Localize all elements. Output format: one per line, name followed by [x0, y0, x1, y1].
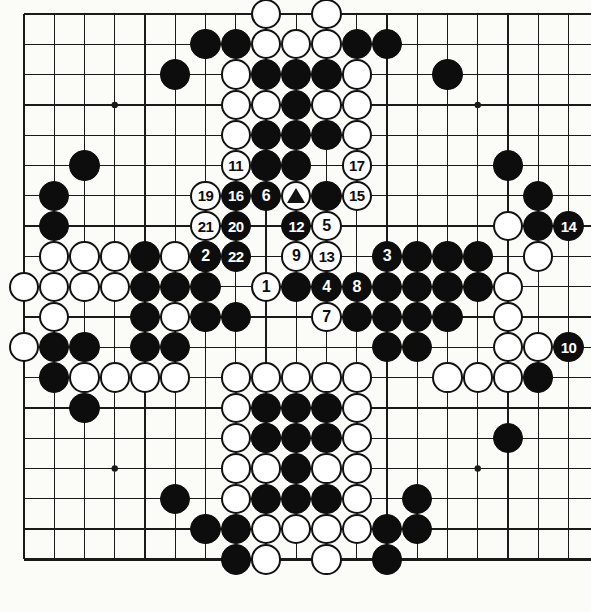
black-stone: [402, 484, 432, 514]
black-stone: [251, 150, 281, 180]
white-stone: [251, 453, 281, 483]
move-stone-12[interactable]: 12: [281, 211, 311, 241]
white-stone: [221, 362, 251, 392]
black-stone: [130, 241, 160, 271]
move-number-label: 17: [349, 158, 365, 173]
white-stone: [493, 362, 523, 392]
move-stone-3[interactable]: 3: [372, 241, 402, 271]
black-stone: [69, 332, 99, 362]
move-stone-1[interactable]: 1: [251, 272, 281, 302]
move-number-label: 9: [292, 248, 300, 264]
black-stone: [372, 302, 402, 332]
black-stone: [130, 332, 160, 362]
move-number-label: 15: [349, 188, 365, 203]
move-number-label: 22: [228, 249, 244, 264]
white-stone: [221, 484, 251, 514]
move-stone-19[interactable]: 19: [190, 181, 220, 211]
white-stone: [311, 90, 341, 120]
black-stone: [342, 29, 372, 59]
move-stone-13[interactable]: 13: [311, 241, 341, 271]
black-stone: [251, 120, 281, 150]
white-stone: [281, 514, 311, 544]
black-stone: [493, 423, 523, 453]
white-stone: [251, 0, 281, 29]
move-stone-14[interactable]: 14: [553, 211, 583, 241]
white-stone: [342, 393, 372, 423]
black-stone: [402, 332, 432, 362]
black-stone: [281, 484, 311, 514]
black-stone: [281, 150, 311, 180]
white-stone: [251, 362, 281, 392]
black-stone: [190, 272, 220, 302]
move-number-label: 4: [322, 279, 330, 295]
stone-layer: 123456789101112131415161719202122: [0, 0, 591, 612]
white-stone: [9, 332, 39, 362]
white-stone: [130, 362, 160, 392]
white-stone: [523, 241, 553, 271]
white-stone: [221, 393, 251, 423]
white-stone: [432, 362, 462, 392]
black-stone: [372, 29, 402, 59]
white-stone: [221, 59, 251, 89]
white-stone: [251, 544, 281, 574]
move-stone-11[interactable]: 11: [221, 150, 251, 180]
white-stone: [493, 211, 523, 241]
white-stone: [342, 453, 372, 483]
white-stone: [69, 362, 99, 392]
move-stone-10[interactable]: 10: [553, 332, 583, 362]
black-stone: [281, 453, 311, 483]
black-stone: [221, 544, 251, 574]
move-stone-15[interactable]: 15: [342, 181, 372, 211]
move-stone-7[interactable]: 7: [311, 302, 341, 332]
black-stone: [221, 29, 251, 59]
black-stone: [190, 514, 220, 544]
move-stone-16[interactable]: 16: [221, 181, 251, 211]
move-number-label: 6: [262, 188, 270, 204]
move-stone-2[interactable]: 2: [190, 241, 220, 271]
move-number-label: 21: [198, 219, 214, 234]
move-stone-8[interactable]: 8: [342, 272, 372, 302]
move-stone-22[interactable]: 22: [221, 241, 251, 271]
white-stone: [251, 29, 281, 59]
black-stone: [130, 302, 160, 332]
white-stone: [493, 272, 523, 302]
black-stone: [221, 514, 251, 544]
black-stone: [432, 59, 462, 89]
move-stone-5[interactable]: 5: [311, 211, 341, 241]
white-stone: [221, 453, 251, 483]
white-stone: [311, 453, 341, 483]
move-number-label: 3: [383, 248, 391, 264]
white-stone: [281, 362, 311, 392]
move-stone-21[interactable]: 21: [190, 211, 220, 241]
move-stone-6[interactable]: 6: [251, 181, 281, 211]
black-stone: [251, 59, 281, 89]
black-stone: [523, 181, 553, 211]
move-stone-4[interactable]: 4: [311, 272, 341, 302]
black-stone: [69, 150, 99, 180]
move-number-label: 7: [322, 309, 330, 325]
white-stone: [493, 302, 523, 332]
white-stone: [311, 362, 341, 392]
move-number-label: 14: [561, 219, 577, 234]
move-stone-9[interactable]: 9: [281, 241, 311, 271]
black-stone: [39, 362, 69, 392]
black-stone: [432, 272, 462, 302]
black-stone: [39, 332, 69, 362]
move-stone-20[interactable]: 20: [221, 211, 251, 241]
black-stone: [493, 150, 523, 180]
move-number-label: 8: [353, 279, 361, 295]
black-stone: [160, 332, 190, 362]
white-stone: [311, 544, 341, 574]
black-stone: [160, 272, 190, 302]
white-stone: [311, 514, 341, 544]
black-stone: [160, 484, 190, 514]
white-stone: [342, 90, 372, 120]
white-stone: [523, 332, 553, 362]
white-stone: [281, 29, 311, 59]
white-stone: [221, 90, 251, 120]
move-stone-17[interactable]: 17: [342, 150, 372, 180]
move-number-label: 20: [228, 219, 244, 234]
white-stone: [251, 514, 281, 544]
black-stone: [281, 423, 311, 453]
move-number-label: 1: [262, 279, 270, 295]
